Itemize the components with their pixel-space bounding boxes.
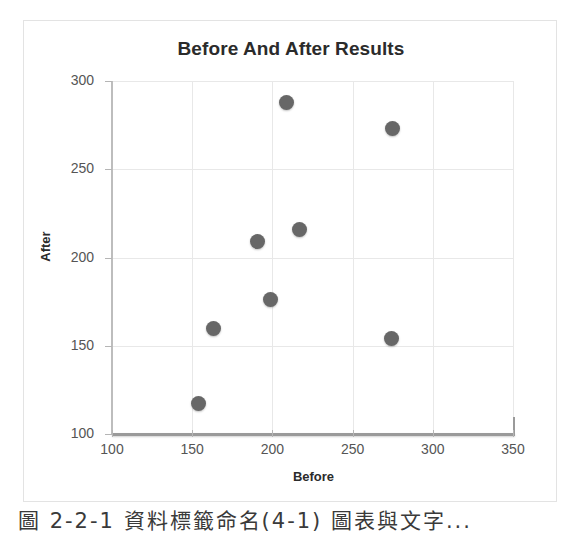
x-axis-tick-label: 250	[329, 441, 377, 457]
gridline-vertical	[192, 81, 193, 434]
gridline-vertical	[513, 81, 514, 434]
y-axis-tick	[105, 169, 112, 170]
x-axis-tick	[272, 430, 273, 437]
y-axis-tick	[105, 81, 112, 82]
x-axis-tick	[112, 430, 113, 437]
x-axis-tick-label: 150	[168, 441, 216, 457]
x-axis-tick	[433, 430, 434, 437]
y-axis-tick-label: 250	[48, 160, 94, 176]
y-axis-title: After	[38, 202, 53, 292]
chart-title: Before And After Results	[24, 38, 558, 60]
y-axis-tick	[105, 434, 112, 435]
x-axis-tick-label: 300	[409, 441, 457, 457]
x-axis-tick	[192, 430, 193, 437]
x-axis-tick	[353, 430, 354, 437]
scatter-point	[292, 222, 307, 237]
gridline-horizontal	[112, 169, 513, 170]
scatter-point	[191, 396, 206, 411]
gridline-horizontal	[112, 346, 513, 347]
gridline-horizontal	[112, 81, 513, 82]
x-axis-tick-label: 350	[489, 441, 537, 457]
scatter-point	[206, 321, 221, 336]
y-axis-tick	[105, 258, 112, 259]
x-axis-title: Before	[112, 469, 515, 484]
scatter-point	[385, 121, 400, 136]
x-axis-tick	[513, 430, 514, 437]
figure-caption: 圖 2-2-1 資料標籤命名(4-1) 圖表與文字...	[0, 508, 580, 537]
y-axis-tick-label: 150	[48, 337, 94, 353]
x-axis-line	[112, 433, 515, 436]
y-axis-tick-label: 200	[48, 249, 94, 265]
gridline-vertical	[272, 81, 273, 434]
gridline-vertical	[433, 81, 434, 434]
x-axis-tick-label: 200	[248, 441, 296, 457]
y-axis-tick	[105, 346, 112, 347]
x-axis-tick-label: 100	[88, 441, 136, 457]
scatter-point	[279, 95, 294, 110]
plot-area	[112, 81, 513, 434]
scatter-point	[263, 292, 278, 307]
gridline-vertical	[353, 81, 354, 434]
y-axis-tick-label: 300	[48, 72, 94, 88]
scatter-point	[384, 331, 399, 346]
scatter-point	[250, 234, 265, 249]
figure-caption-text: 圖 2-2-1 資料標籤命名(4-1) 圖表與文字...	[18, 508, 472, 534]
chart-figure-card: Before And After Results 100150200250300…	[23, 20, 557, 502]
y-axis-tick-label: 100	[48, 425, 94, 441]
gridline-horizontal	[112, 258, 513, 259]
